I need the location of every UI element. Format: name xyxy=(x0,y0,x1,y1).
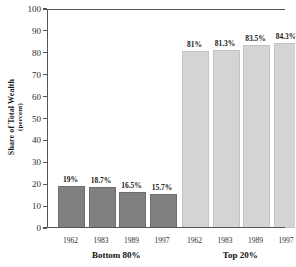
y-tick-label: 30 xyxy=(0,157,45,167)
bar xyxy=(119,192,146,228)
y-tick-label: 40 xyxy=(0,135,45,145)
bar-value-label: 15.7% xyxy=(142,183,183,192)
y-tick-label: 60 xyxy=(0,92,45,102)
bar xyxy=(213,50,240,228)
y-tick-label: 70 xyxy=(0,70,45,80)
x-axis-line xyxy=(47,227,285,228)
y-tick-label: 20 xyxy=(0,179,45,189)
bar-chart: Share of Total Wealth (percent) 01020304… xyxy=(0,0,295,267)
y-tick-label: 90 xyxy=(0,26,45,36)
bar xyxy=(243,45,270,228)
x-tick-label: 1997 xyxy=(266,236,296,245)
bar xyxy=(274,43,296,228)
y-tick-label: 0 xyxy=(0,223,45,233)
bar xyxy=(58,186,85,228)
y-tick-label: 10 xyxy=(0,201,45,211)
bar-value-label: 84.3% xyxy=(266,32,296,41)
y-tick-label: 100 xyxy=(0,4,45,14)
bar xyxy=(182,51,209,228)
y-tick-label: 50 xyxy=(0,114,45,124)
bar xyxy=(89,187,116,228)
y-tick-label: 80 xyxy=(0,48,45,58)
group-label: Bottom 80% xyxy=(56,250,176,260)
bar xyxy=(150,194,177,228)
group-label: Top 20% xyxy=(180,250,295,260)
